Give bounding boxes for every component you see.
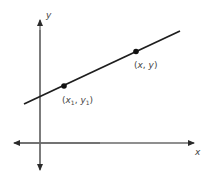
x-axis-label: x [195,148,200,157]
point-label-x-y: (x, y) [134,61,157,70]
point-x-y [133,49,139,55]
y-axis-label: y [46,11,51,20]
point-label-x1-y1: (x1, y1) [62,96,93,106]
coordinate-plane [0,0,212,178]
paren-close: ) [90,95,94,105]
point-x1-y1 [61,83,67,89]
paren-close: ) [154,60,158,70]
